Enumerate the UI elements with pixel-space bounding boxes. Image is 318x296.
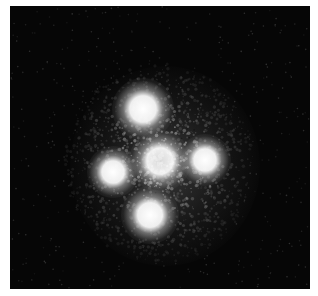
lensed-image-bottom (121, 186, 178, 243)
astronomical-image-frame (10, 6, 310, 289)
